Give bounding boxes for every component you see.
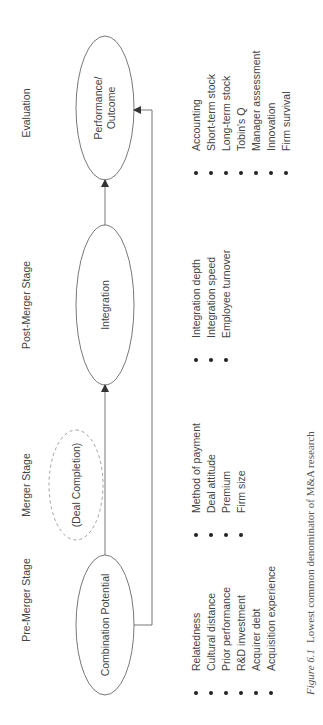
list-item-text: Employee turnover: [220, 250, 232, 338]
list-item-text: Deal attitude: [205, 454, 217, 513]
list-item: Method of payment: [189, 423, 204, 537]
node-performance-label: Performance/ Outcome: [92, 76, 118, 139]
list-item: Premium: [219, 423, 234, 537]
bullet-icon: [224, 691, 228, 695]
list-item-text: Integration speed: [205, 257, 217, 338]
node-integration-label: Integration: [99, 280, 112, 330]
bullet-icon: [194, 358, 198, 362]
node-performance-label-line2: Outcome: [105, 76, 118, 139]
node-combination-potential-label: Combination Potential: [99, 574, 112, 677]
list-item-text: R&D investment: [235, 595, 247, 671]
list-item: Acquirer debt: [249, 566, 264, 695]
bullet-icon: [224, 358, 228, 362]
bullet-icon: [209, 533, 213, 537]
bullet-icon: [284, 171, 288, 175]
bullet-icon: [239, 533, 243, 537]
bullet-icon: [209, 171, 213, 175]
list-item-text: Method of payment: [190, 423, 202, 513]
list-item: Firm survival: [279, 51, 294, 175]
list-merger-variables: Method of payment Deal attitude Premium …: [189, 423, 249, 537]
list-item-text: Cultural distance: [205, 593, 217, 671]
list-item-text: Long-term stock: [220, 76, 232, 151]
list-item: Innovation: [264, 51, 279, 175]
figure-canvas: Pre-Merger Stage Merger Stage Post-Merge…: [0, 0, 323, 725]
bullet-icon: [269, 691, 273, 695]
list-item: Relatedness: [189, 566, 204, 695]
list-item: R&D investment: [234, 566, 249, 695]
bullet-icon: [194, 691, 198, 695]
figure-caption-text: Lowest common denominator of M&A researc…: [304, 431, 316, 643]
list-pre-merger-variables: Relatedness Cultural distance Prior perf…: [189, 566, 279, 695]
list-item: Acquisition experience: [264, 566, 279, 695]
list-item-text: Accounting: [190, 99, 202, 151]
list-item-text: Premium: [220, 471, 232, 513]
bullet-icon: [239, 691, 243, 695]
list-item-text: Acquirer debt: [250, 609, 262, 671]
bullet-icon: [194, 533, 198, 537]
bullet-icon: [224, 533, 228, 537]
bullet-icon: [209, 691, 213, 695]
bullet-icon: [224, 171, 228, 175]
list-item-text: Firm size: [235, 470, 247, 513]
list-item: Integration depth: [189, 250, 204, 362]
list-item: Manager assessment: [249, 51, 264, 175]
list-item: Long-term stock: [219, 51, 234, 175]
node-performance-label-line1: Performance/: [92, 76, 105, 139]
list-item-text: Manager assessment: [250, 51, 262, 151]
list-item: Cultural distance: [204, 566, 219, 695]
bullet-icon: [254, 691, 258, 695]
list-item: Accounting: [189, 51, 204, 175]
figure-label: Figure 6.1: [304, 649, 316, 695]
list-item-text: Tobin's Q: [235, 108, 247, 151]
list-item: Employee turnover: [219, 250, 234, 362]
list-item-text: Relatedness: [190, 613, 202, 671]
list-evaluation-variables: Accounting Short-term stock Long-term st…: [189, 51, 294, 175]
list-item: Tobin's Q: [234, 51, 249, 175]
list-item-text: Prior performance: [220, 587, 232, 671]
list-item-text: Short-term stock: [205, 74, 217, 151]
figure-caption: Figure 6.1Lowest common denominator of M…: [304, 431, 316, 695]
bullet-icon: [209, 358, 213, 362]
bullet-icon: [269, 171, 273, 175]
list-item: Short-term stock: [204, 51, 219, 175]
node-deal-completion-label: (Deal Completion): [70, 443, 83, 528]
bullet-icon: [194, 171, 198, 175]
list-item-text: Innovation: [265, 103, 277, 151]
list-item-text: Acquisition experience: [265, 566, 277, 671]
list-post-merger-variables: Integration depth Integration speed Empl…: [189, 250, 234, 362]
list-item-text: Firm survival: [280, 92, 292, 152]
edge-combination-to-performance-bracket: [134, 110, 152, 625]
bullet-icon: [239, 171, 243, 175]
list-item: Firm size: [234, 423, 249, 537]
list-item: Integration speed: [204, 250, 219, 362]
list-item: Deal attitude: [204, 423, 219, 537]
list-item-text: Integration depth: [190, 259, 202, 338]
bullet-icon: [254, 171, 258, 175]
list-item: Prior performance: [219, 566, 234, 695]
